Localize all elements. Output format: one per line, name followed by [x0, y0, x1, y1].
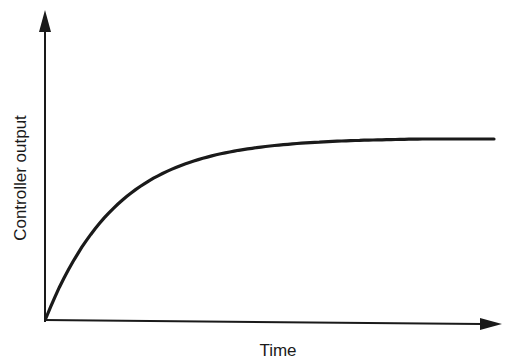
y-axis-arrow-icon: [39, 10, 51, 32]
chart: Time Controller output: [0, 0, 518, 362]
x-axis-label: Time: [259, 341, 296, 360]
response-curve: [46, 139, 494, 318]
y-axis-label: Controller output: [11, 115, 30, 241]
x-axis: [44, 320, 482, 324]
x-axis-arrow-icon: [480, 318, 502, 330]
